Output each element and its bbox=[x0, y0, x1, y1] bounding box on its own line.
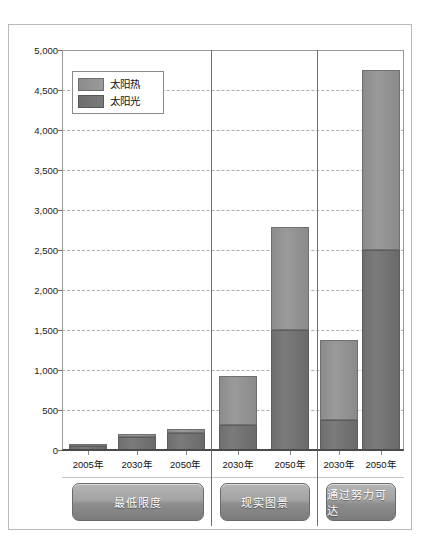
y-axis-tick-label-500: 500 bbox=[2, 405, 58, 416]
x-axis-tick-label-现实图景-2050年: 2050年 bbox=[263, 457, 317, 471]
y-axis-tick-container: 05001,0001,5002,0002,5003,0003,5004,0004… bbox=[0, 50, 58, 450]
gridline-4000 bbox=[62, 130, 404, 131]
bar-segment-pv bbox=[167, 433, 205, 450]
x-axis-tick-mark bbox=[381, 451, 382, 455]
x-axis-tick-label-最低限度-2005年: 2005年 bbox=[61, 457, 115, 471]
y-axis-tick-label-4500: 4,500 bbox=[2, 85, 58, 96]
scenario-label-band: 最低限度现实图景通过努力可达 bbox=[62, 481, 404, 525]
y-axis-tick-label-0: 0 bbox=[2, 445, 58, 456]
scenario-label-text: 通过努力可达 bbox=[327, 486, 395, 518]
gridline-1500 bbox=[62, 330, 404, 331]
legend-swatch-pv-icon bbox=[78, 95, 104, 108]
bar-现实图景-2030年 bbox=[219, 376, 257, 450]
bar-segment-thermal bbox=[118, 434, 156, 437]
bar-通过努力可达-2030年 bbox=[320, 340, 358, 450]
group-divider-lower-0 bbox=[211, 451, 212, 526]
legend-label-pv: 太阳光 bbox=[110, 96, 140, 107]
bar-最低限度-2030年 bbox=[118, 434, 156, 450]
x-axis-tick-mark bbox=[290, 451, 291, 455]
bar-segment-thermal bbox=[320, 340, 358, 421]
bar-segment-thermal bbox=[69, 444, 107, 446]
bar-最低限度-2005年 bbox=[69, 446, 107, 450]
bar-现实图景-2050年 bbox=[271, 227, 309, 450]
gridline-2000 bbox=[62, 290, 404, 291]
x-axis-tick-label-最低限度-2030年: 2030年 bbox=[110, 457, 164, 471]
x-axis-tick-label-现实图景-2030年: 2030年 bbox=[211, 457, 265, 471]
bar-segment-thermal bbox=[362, 70, 400, 250]
x-axis-tick-mark bbox=[238, 451, 239, 455]
x-axis-tick-mark bbox=[88, 451, 89, 455]
bar-segment-pv bbox=[69, 446, 107, 450]
y-axis-tick-label-3000: 3,000 bbox=[2, 205, 58, 216]
bar-segment-thermal bbox=[271, 227, 309, 330]
y-axis-tick-label-2500: 2,500 bbox=[2, 245, 58, 256]
bar-segment-thermal bbox=[219, 376, 257, 426]
group-divider-lower-1 bbox=[317, 451, 318, 526]
bar-segment-pv bbox=[362, 250, 400, 450]
y-axis-tick-label-2000: 2,000 bbox=[2, 285, 58, 296]
scenario-label-最低限度: 最低限度 bbox=[72, 483, 204, 521]
gridline-3000 bbox=[62, 210, 404, 211]
bar-最低限度-2050年 bbox=[167, 429, 205, 450]
y-axis-tick-label-5000: 5,000 bbox=[2, 45, 58, 56]
group-divider-1 bbox=[317, 50, 318, 450]
legend-item-pv: 太阳光 bbox=[78, 93, 158, 109]
bar-segment-thermal bbox=[167, 429, 205, 433]
scenario-label-通过努力可达: 通过努力可达 bbox=[326, 483, 396, 521]
chart-legend: 太阳热 太阳光 bbox=[72, 71, 164, 114]
y-axis-tick-label-4000: 4,000 bbox=[2, 125, 58, 136]
scenario-label-text: 最低限度 bbox=[114, 494, 162, 510]
gridline-5000 bbox=[62, 50, 404, 51]
bar-通过努力可达-2050年 bbox=[362, 70, 400, 450]
bar-segment-pv bbox=[271, 330, 309, 450]
legend-label-thermal: 太阳热 bbox=[110, 79, 140, 90]
x-axis-tick-label-通过努力可达-2050年: 2050年 bbox=[354, 457, 408, 471]
group-divider-0 bbox=[211, 50, 212, 450]
legend-item-thermal: 太阳热 bbox=[78, 76, 158, 92]
x-axis-tick-mark bbox=[137, 451, 138, 455]
bar-segment-pv bbox=[219, 425, 257, 450]
scenario-label-现实图景: 现实图景 bbox=[220, 483, 310, 521]
x-axis-tick-mark bbox=[339, 451, 340, 455]
x-axis-label-band: 2005年2030年2050年2030年2050年2030年2050年 bbox=[62, 451, 404, 478]
legend-swatch-thermal-icon bbox=[78, 78, 104, 91]
y-axis-tick-label-1000: 1,000 bbox=[2, 365, 58, 376]
bar-segment-pv bbox=[320, 420, 358, 450]
gridline-3500 bbox=[62, 170, 404, 171]
scenario-label-text: 现实图景 bbox=[241, 494, 289, 510]
gridline-2500 bbox=[62, 250, 404, 251]
y-axis-tick-label-3500: 3,500 bbox=[2, 165, 58, 176]
x-axis-tick-mark bbox=[186, 451, 187, 455]
x-axis-tick-label-最低限度-2050年: 2050年 bbox=[159, 457, 213, 471]
y-axis-tick-label-1500: 1,500 bbox=[2, 325, 58, 336]
bar-segment-pv bbox=[118, 437, 156, 450]
